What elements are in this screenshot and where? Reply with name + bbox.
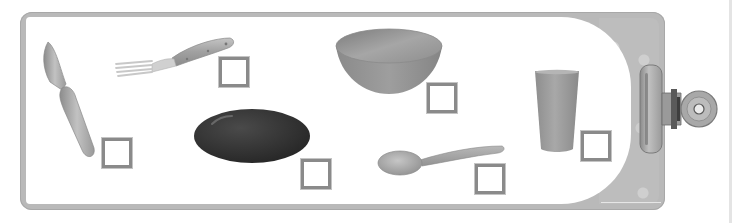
plate-icon [192, 108, 312, 168]
spoon-checkbox[interactable] [475, 164, 505, 194]
cup-icon [533, 69, 581, 153]
fork-checkbox[interactable] [219, 57, 249, 87]
binder-clip-icon [637, 63, 722, 155]
plate-checkbox[interactable] [301, 159, 331, 189]
bowl-checkbox[interactable] [427, 83, 457, 113]
binder-clip [637, 63, 722, 155]
cup-image [533, 69, 581, 153]
clipboard-highlight [601, 202, 661, 203]
plate-image [192, 108, 312, 168]
cup-checkbox[interactable] [581, 131, 611, 161]
knife-image [40, 38, 100, 163]
knife-checkbox[interactable] [102, 138, 132, 168]
worksheet-canvas [0, 0, 735, 223]
page-edge-divider [729, 0, 732, 223]
knife-icon [40, 38, 100, 163]
